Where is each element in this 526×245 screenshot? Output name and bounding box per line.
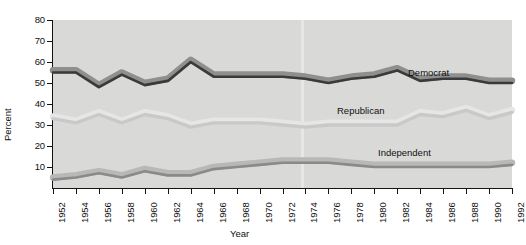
series-label-independent: Independent (378, 148, 431, 158)
x-axis-title: Year (230, 228, 249, 239)
series-label-republican: Republican (337, 106, 385, 116)
series-label-democrat: Democrat (408, 68, 449, 78)
y-axis-title: Percent (2, 108, 13, 141)
